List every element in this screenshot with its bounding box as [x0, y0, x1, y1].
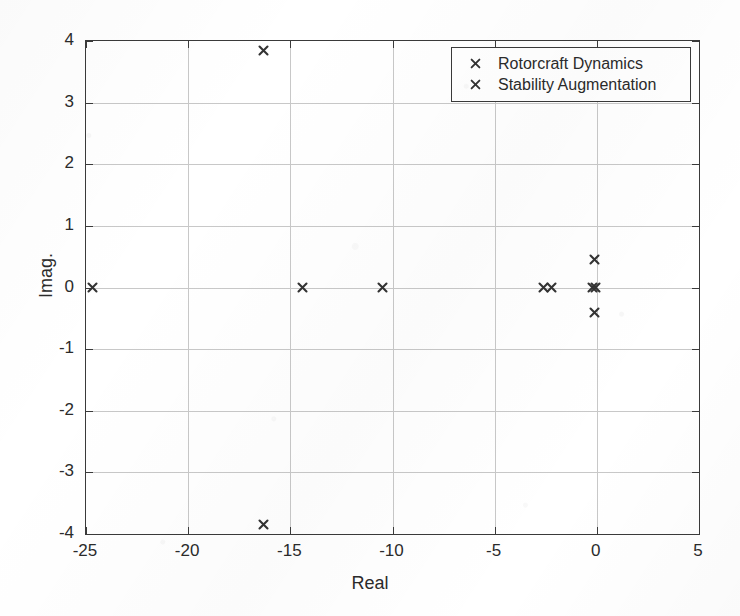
legend-label: Rotorcraft Dynamics [492, 55, 643, 73]
y-axis-tick [692, 226, 699, 227]
x-axis-tick-label: -15 [277, 541, 302, 561]
x-axis-tick-label: 0 [591, 541, 600, 561]
y-axis-tick [86, 226, 93, 227]
legend-marker-x-icon [458, 58, 492, 69]
x-axis-tick [188, 41, 189, 48]
gridline-horizontal [86, 288, 699, 289]
y-axis-tick [86, 103, 93, 104]
y-axis-tick [86, 41, 93, 42]
y-axis-tick-label: -2 [42, 400, 74, 420]
data-point-marker [589, 254, 600, 265]
gridline-horizontal [86, 103, 699, 104]
x-axis-tick [699, 41, 700, 48]
plot-axes-area [85, 40, 700, 535]
x-axis-tick [290, 527, 291, 534]
legend-entry-stability-augmentation: Stability Augmentation [452, 74, 690, 95]
x-axis-tick-label: -5 [486, 541, 501, 561]
y-axis-tick-label: 1 [42, 215, 74, 235]
data-point-marker [589, 307, 600, 318]
y-axis-tick [86, 288, 93, 289]
x-axis-tick-label: -20 [175, 541, 200, 561]
y-axis-tick [692, 103, 699, 104]
y-axis-tick-label: 3 [42, 92, 74, 112]
x-axis-tick-label: -10 [379, 541, 404, 561]
y-axis-tick [86, 349, 93, 350]
gridline-horizontal [86, 226, 699, 227]
gridline-horizontal [86, 164, 699, 165]
y-axis-tick [86, 164, 93, 165]
legend-box: Rotorcraft Dynamics Stability Augmentati… [451, 47, 691, 102]
x-axis-tick-label: 5 [693, 541, 702, 561]
y-axis-tick [692, 164, 699, 165]
y-axis-tick-label: 4 [42, 30, 74, 50]
legend-marker-x-icon [458, 79, 492, 90]
x-axis-tick [393, 41, 394, 48]
x-axis-tick [699, 527, 700, 534]
x-axis-tick [188, 527, 189, 534]
y-axis-tick [86, 472, 93, 473]
pole-zero-plot-figure: Imag. Real Rotorcraft Dynamics Stability… [0, 0, 740, 616]
x-axis-label: Real [0, 573, 740, 594]
data-point-marker [258, 519, 269, 530]
y-axis-tick-label: 0 [42, 277, 74, 297]
x-axis-tick [290, 41, 291, 48]
y-axis-tick [692, 41, 699, 42]
gridline-horizontal [86, 472, 699, 473]
legend-label: Stability Augmentation [492, 76, 656, 94]
y-axis-tick [86, 534, 93, 535]
data-point-marker [258, 45, 269, 56]
y-axis-tick-label: -3 [42, 461, 74, 481]
x-axis-tick-label: -25 [73, 541, 98, 561]
gridline-horizontal [86, 349, 699, 350]
y-axis-tick [692, 534, 699, 535]
gridline-horizontal [86, 411, 699, 412]
y-axis-tick-label: -1 [42, 338, 74, 358]
y-axis-tick [692, 472, 699, 473]
y-axis-tick [692, 349, 699, 350]
y-axis-tick-label: -4 [42, 523, 74, 543]
y-axis-tick [692, 411, 699, 412]
x-axis-tick [597, 527, 598, 534]
x-axis-tick [86, 41, 87, 48]
legend-entry-rotorcraft-dynamics: Rotorcraft Dynamics [452, 53, 690, 74]
x-axis-tick [495, 527, 496, 534]
x-axis-tick [393, 527, 394, 534]
y-axis-tick-label: 2 [42, 153, 74, 173]
y-axis-tick [86, 411, 93, 412]
x-axis-tick [86, 527, 87, 534]
y-axis-tick [692, 288, 699, 289]
